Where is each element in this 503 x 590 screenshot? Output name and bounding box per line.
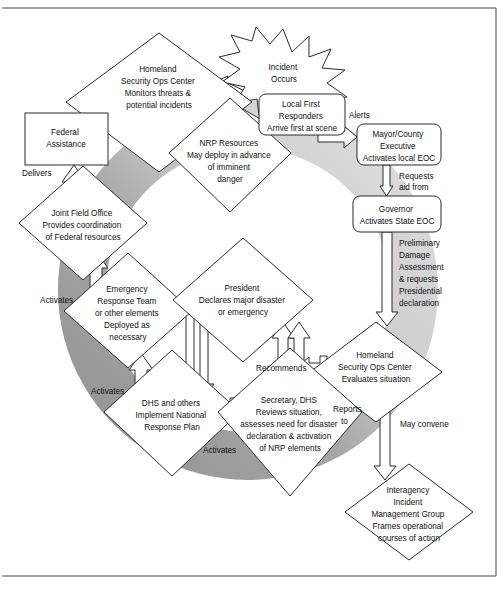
edge-label-activates-dhs: Activates bbox=[203, 446, 236, 455]
node-iimg: Interagency Incident Management Group Fr… bbox=[345, 464, 473, 560]
edge-label-delivers: Delivers bbox=[22, 169, 52, 178]
dhs-implement-label: DHS and others Implement National Respon… bbox=[136, 399, 209, 432]
edge-label-activates-jfo: Activates bbox=[40, 296, 73, 305]
nrp-flow-diagram: Incident Occurs Homeland Security Ops Ce… bbox=[0, 0, 503, 590]
joint-field-office-label: Joint Field Office Provides coordination… bbox=[42, 209, 123, 242]
node-mayor-county-executive: Mayor/County Executive Activates local E… bbox=[357, 124, 441, 165]
node-governor: Governor Activates State EOC bbox=[353, 196, 441, 232]
edge-label-requests-aid-from: Requests aid from bbox=[399, 172, 436, 192]
edge-label-recommends: Recommends bbox=[256, 364, 307, 373]
node-local-first-responders: Local First Responders Arrive first at s… bbox=[259, 94, 345, 135]
node-federal-assistance: Federal Assistance bbox=[25, 113, 108, 165]
edge-label-alerts: Alerts bbox=[349, 111, 370, 120]
edge-label-activates-ert: Activates bbox=[91, 387, 124, 396]
diagram-canvas: Incident Occurs Homeland Security Ops Ce… bbox=[0, 0, 503, 590]
edge-label-may-convene: May convene bbox=[400, 420, 449, 429]
